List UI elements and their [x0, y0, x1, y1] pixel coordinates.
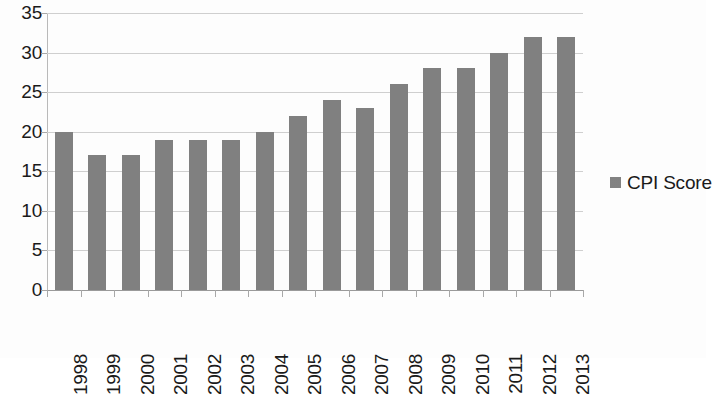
- y-axis-tick-label: 5: [0, 240, 42, 259]
- x-axis-tick-label: 2003: [238, 354, 257, 395]
- bar: [390, 84, 408, 290]
- x-axis-tick-mark: [215, 290, 216, 297]
- x-axis-tick-label: 2009: [439, 354, 458, 395]
- x-axis-tick-mark: [416, 290, 417, 297]
- bar: [88, 155, 106, 290]
- x-axis-tick-mark: [550, 290, 551, 297]
- x-axis-tick-mark: [47, 290, 48, 297]
- x-axis-tick-label: 2011: [506, 354, 525, 394]
- x-axis-tick-label: 2012: [540, 354, 559, 395]
- bar: [55, 132, 73, 290]
- legend-label-cpi-score: CPI Score: [627, 173, 712, 192]
- x-axis-tick-label: 2006: [339, 354, 358, 395]
- y-axis-tick-label: 15: [0, 161, 42, 180]
- bar: [289, 116, 307, 290]
- x-axis-tick-label: 2001: [171, 354, 190, 395]
- x-axis-tick-mark: [114, 290, 115, 297]
- x-axis-tick-mark: [382, 290, 383, 297]
- x-axis-tick-mark: [449, 290, 450, 297]
- x-axis-tick-label: 2000: [138, 354, 157, 395]
- x-axis-tick-label: 2013: [573, 354, 592, 395]
- bar: [222, 140, 240, 290]
- legend-swatch-icon: [610, 177, 621, 188]
- x-axis-tick-mark: [81, 290, 82, 297]
- y-axis-tick-labels: 05101520253035: [0, 0, 42, 358]
- x-axis-tick-mark: [315, 290, 316, 297]
- x-axis-tick-label: 1999: [104, 354, 123, 395]
- x-axis-tick-mark: [248, 290, 249, 297]
- x-axis-tick-label: 2010: [473, 354, 492, 395]
- legend: CPI Score: [610, 173, 712, 192]
- x-axis-tick-mark: [483, 290, 484, 297]
- y-axis-tick-label: 20: [0, 122, 42, 141]
- bar: [423, 68, 441, 290]
- x-axis-tick-mark: [349, 290, 350, 297]
- y-axis-tick-label: 10: [0, 201, 42, 220]
- bar: [557, 37, 575, 290]
- x-axis-tick-mark: [181, 290, 182, 297]
- x-axis-tick-label: 2007: [372, 354, 391, 395]
- bar: [356, 108, 374, 290]
- y-axis-tick-label: 30: [0, 43, 42, 62]
- x-axis-tick-mark: [148, 290, 149, 297]
- x-axis-tick-label: 1998: [71, 354, 90, 395]
- bar-series-cpi-score: [47, 13, 583, 290]
- bar: [189, 140, 207, 290]
- bar: [524, 37, 542, 290]
- plot-area: [47, 13, 583, 290]
- bar: [155, 140, 173, 290]
- y-axis-tick-label: 35: [0, 3, 42, 22]
- x-axis-tick-label: 2008: [406, 354, 425, 395]
- bar: [256, 132, 274, 290]
- bar: [490, 53, 508, 290]
- x-axis-tick-label: 2005: [305, 354, 324, 395]
- bar: [457, 68, 475, 290]
- x-axis-tick-label: 2004: [272, 354, 291, 395]
- x-axis-tick-mark: [516, 290, 517, 297]
- y-axis-tick-label: 25: [0, 82, 42, 101]
- x-axis-tick-marks: [47, 290, 583, 298]
- bar: [323, 100, 341, 290]
- x-axis-tick-mark: [282, 290, 283, 297]
- y-axis-tick-label: 0: [0, 280, 42, 299]
- bar: [122, 155, 140, 290]
- x-axis-tick-mark: [583, 290, 584, 297]
- x-axis-tick-label: 2002: [205, 354, 224, 395]
- x-axis-tick-labels: 1998199920002001200220032004200520062007…: [47, 298, 583, 358]
